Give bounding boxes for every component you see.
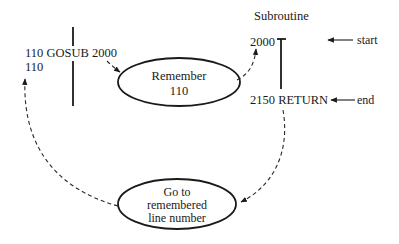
goto-node-line2: remembered <box>147 198 207 212</box>
remember-to-subroutine-arrow <box>237 49 256 80</box>
end-label: end <box>357 93 374 107</box>
goto-node-line3: line number <box>148 211 206 225</box>
gosub-call-line: 110 GOSUB 2000 <box>25 46 117 60</box>
subroutine-start-line: 2000 <box>250 35 275 49</box>
gosub-flow-diagram: 110 GOSUB 2000 110 Remember 110 Subrouti… <box>0 0 399 244</box>
goto-node-line1: Go to <box>164 185 191 199</box>
subroutine-title: Subroutine <box>254 9 309 23</box>
return-to-goto-arrow <box>241 110 285 202</box>
gosub-to-remember-arrow <box>107 61 120 72</box>
remember-node-line1: Remember <box>152 69 208 83</box>
return-target-line: 110 <box>25 60 43 74</box>
subroutine-return-line: 2150 RETURN <box>250 93 328 107</box>
start-label: start <box>357 33 378 47</box>
goto-to-return-line-arrow <box>25 79 118 206</box>
remember-node-line2: 110 <box>170 84 188 98</box>
